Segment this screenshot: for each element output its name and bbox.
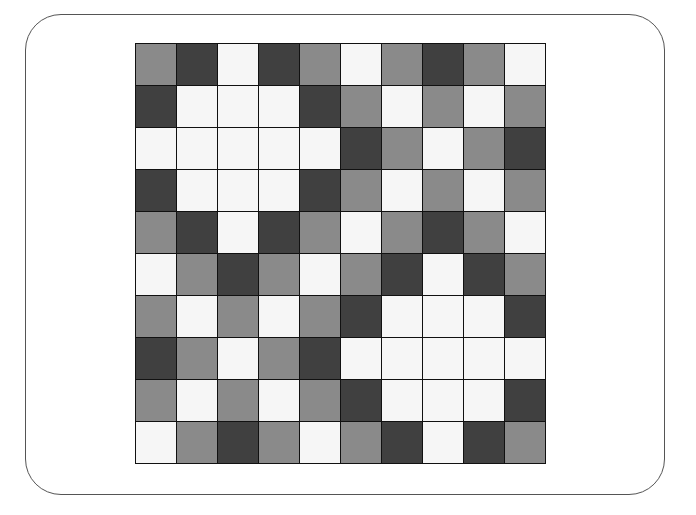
grid-cell [341,380,381,421]
grid-cell [341,212,381,253]
grid-cell [218,128,258,169]
grid-cell [341,296,381,337]
grid-cell [218,296,258,337]
grid-cell [505,44,545,85]
grid-cell [341,254,381,295]
grid-cell [136,86,176,127]
grid-cell [177,422,217,463]
grid-cell [382,296,422,337]
grid-cell [218,422,258,463]
grid-cell [300,212,340,253]
grid-cell [218,212,258,253]
grid-cell [136,296,176,337]
grid-cell [505,254,545,295]
grid-cell [218,170,258,211]
grid-cell [382,86,422,127]
grid-cell [136,128,176,169]
grid-cell [505,212,545,253]
grid-cell [300,44,340,85]
grid-cell [423,128,463,169]
grid-cell [464,128,504,169]
grid-cell [423,296,463,337]
grid-cell [423,338,463,379]
grid-cell [177,128,217,169]
grid-cell [136,380,176,421]
grid-cell [259,296,299,337]
grid-cell [382,254,422,295]
grid-cell [464,44,504,85]
grid-cell [300,296,340,337]
grid-cell [382,170,422,211]
grid-cell [136,338,176,379]
grid-cell [464,86,504,127]
grid-cell [136,170,176,211]
grid-cell [382,44,422,85]
grid-cell [505,380,545,421]
grid-cell [341,86,381,127]
grid-cell [177,86,217,127]
grid-cell [177,338,217,379]
grid-cell [423,212,463,253]
grid-cell [423,422,463,463]
grid-cell [423,86,463,127]
grid-cell [505,296,545,337]
grid-cell [259,254,299,295]
grid-cell [218,44,258,85]
grid-cell [382,212,422,253]
grid-cell [177,44,217,85]
grid-cell [382,128,422,169]
grid-cell [300,422,340,463]
grid-cell [464,422,504,463]
grid-cell [382,422,422,463]
grid-cell [259,380,299,421]
grid-cell [423,170,463,211]
grid-cell [341,338,381,379]
grid-cell [259,422,299,463]
grid-cell [177,254,217,295]
grid-cell [177,212,217,253]
grid-cell [423,44,463,85]
grid-cell [300,254,340,295]
grid-cell [218,380,258,421]
grid-cell [136,44,176,85]
grid-cell [423,254,463,295]
grid-cell [300,86,340,127]
grid-cell [177,380,217,421]
grid-cell [382,380,422,421]
grid-cell [382,338,422,379]
grid-cell [505,86,545,127]
grid-cell [259,128,299,169]
grid-cell [423,380,463,421]
grid-cell [218,254,258,295]
grid-cell [259,338,299,379]
grid-cell [136,254,176,295]
grid-cell [505,338,545,379]
grid-cell [341,128,381,169]
grid-cell [505,128,545,169]
grid-cell [505,170,545,211]
grid-cell [259,170,299,211]
grid-cell [177,170,217,211]
grid-cell [464,254,504,295]
grid-cell [218,338,258,379]
grid-cell [136,422,176,463]
grid-cell [464,338,504,379]
shade-grid [135,43,546,464]
grid-cell [464,380,504,421]
grid-cell [259,212,299,253]
grid-cell [464,212,504,253]
grid-cell [341,44,381,85]
grid-cell [300,170,340,211]
grid-cell [300,380,340,421]
grid-cell [259,44,299,85]
grid-cell [464,170,504,211]
grid-cell [341,170,381,211]
grid-cell [300,128,340,169]
grid-cell [464,296,504,337]
grid-cell [136,212,176,253]
grid-cell [300,338,340,379]
grid-cell [218,86,258,127]
grid-cell [505,422,545,463]
grid-cell [341,422,381,463]
grid-cell [259,86,299,127]
